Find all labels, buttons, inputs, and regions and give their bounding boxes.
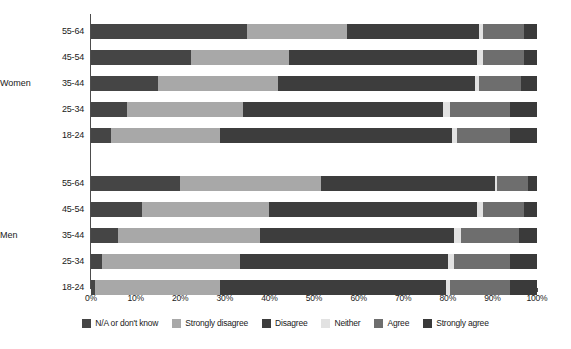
bar-segment-disagree	[243, 102, 444, 117]
bar-track	[91, 228, 537, 243]
bar-segment-n-a-or-don-t-know	[91, 254, 102, 269]
legend-swatch-agree	[374, 319, 383, 328]
bar-row	[91, 202, 537, 217]
bar-segment-n-a-or-don-t-know	[91, 50, 191, 65]
legend-label: Strongly disagree	[185, 318, 248, 328]
x-tick-label: 60%	[350, 293, 366, 303]
x-tick-label: 50%	[306, 293, 322, 303]
x-tick-label: 100%	[527, 293, 548, 303]
legend-item[interactable]: Agree	[374, 318, 409, 328]
category-label: 25-34	[44, 254, 84, 269]
bar-segment-disagree	[321, 176, 495, 191]
bar-segment-strongly-disagree	[247, 24, 347, 39]
bar-segment-strongly-disagree	[118, 228, 261, 243]
bar-segment-n-a-or-don-t-know	[91, 228, 118, 243]
bar-segment-n-a-or-don-t-know	[91, 24, 247, 39]
legend-item[interactable]: Neither	[321, 318, 360, 328]
bar-row	[91, 50, 537, 65]
bar-track	[91, 50, 537, 65]
legend-item[interactable]: Disagree	[262, 318, 307, 328]
bar-segment-agree	[479, 76, 521, 91]
bar-segment-n-a-or-don-t-know	[91, 128, 111, 143]
bar-segment-strongly-agree	[528, 176, 537, 191]
bar-track	[91, 176, 537, 191]
bar-segment-n-a-or-don-t-know	[91, 176, 180, 191]
bar-segment-agree	[497, 176, 528, 191]
plot-area	[91, 14, 537, 288]
bar-row	[91, 128, 537, 143]
bar-segment-strongly-agree	[524, 24, 537, 39]
legend-swatch-disagree	[262, 319, 271, 328]
bar-segment-strongly-disagree	[95, 280, 220, 295]
bar-track	[91, 202, 537, 217]
bar-segment-strongly-disagree	[102, 254, 240, 269]
bar-segment-agree	[483, 202, 523, 217]
bar-segment-strongly-agree	[510, 128, 537, 143]
bar-segment-strongly-agree	[524, 50, 537, 65]
bar-segment-strongly-disagree	[191, 50, 289, 65]
category-label: 45-54	[44, 202, 84, 217]
bar-track	[91, 102, 537, 117]
bar-segment-agree	[483, 24, 523, 39]
bar-segment-agree	[450, 102, 510, 117]
bar-segment-disagree	[240, 254, 447, 269]
legend-item[interactable]: Strongly agree	[423, 318, 488, 328]
bar-segment-disagree	[220, 280, 445, 295]
bar-track	[91, 254, 537, 269]
category-label: 45-54	[44, 50, 84, 65]
x-tick-label: 40%	[261, 293, 277, 303]
bar-segment-agree	[461, 228, 519, 243]
category-label-column: 55-6445-5435-4425-3418-2455-6445-5435-44…	[38, 14, 84, 288]
x-tick-label: 30%	[217, 293, 233, 303]
bar-segment-strongly-agree	[510, 254, 537, 269]
x-tick-label: 80%	[440, 293, 456, 303]
bar-segment-disagree	[220, 128, 452, 143]
bar-segment-disagree	[289, 50, 476, 65]
legend-label: Disagree	[275, 318, 307, 328]
bar-segment-agree	[483, 50, 523, 65]
bar-segment-strongly-disagree	[180, 176, 320, 191]
bar-row	[91, 254, 537, 269]
legend-item[interactable]: Strongly disagree	[172, 318, 248, 328]
chart-legend: N/A or don't knowStrongly disagreeDisagr…	[0, 318, 571, 328]
legend-label: Neither	[334, 318, 360, 328]
bar-segment-disagree	[347, 24, 479, 39]
bar-segment-strongly-agree	[524, 202, 537, 217]
bar-segment-disagree	[278, 76, 474, 91]
x-tick-label: 70%	[395, 293, 411, 303]
group-label-women: Women	[0, 76, 44, 91]
legend-label: Strongly agree	[436, 318, 488, 328]
bar-segment-neither	[454, 228, 461, 243]
bar-segment-strongly-disagree	[158, 76, 278, 91]
category-label: 18-24	[44, 280, 84, 295]
category-label: 55-64	[44, 24, 84, 39]
bar-row	[91, 102, 537, 117]
bar-row	[91, 76, 537, 91]
bar-row	[91, 24, 537, 39]
category-label: 18-24	[44, 128, 84, 143]
legend-swatch-neither	[321, 319, 330, 328]
category-label: 25-34	[44, 102, 84, 117]
legend-item[interactable]: N/A or don't know	[82, 318, 158, 328]
category-label: 35-44	[44, 228, 84, 243]
x-tick-label: 90%	[484, 293, 500, 303]
category-label: 35-44	[44, 76, 84, 91]
bar-segment-neither	[443, 102, 450, 117]
bar-segment-strongly-disagree	[111, 128, 220, 143]
bar-segment-strongly-agree	[510, 102, 537, 117]
bar-segment-neither	[477, 50, 484, 65]
bar-segment-n-a-or-don-t-know	[91, 102, 127, 117]
legend-label: Agree	[387, 318, 409, 328]
bar-row	[91, 176, 537, 191]
legend-swatch-strongly-agree	[423, 319, 432, 328]
x-tick-label: 20%	[172, 293, 188, 303]
bar-segment-strongly-disagree	[142, 202, 269, 217]
bar-segment-strongly-agree	[519, 228, 537, 243]
x-tick-label: 0%	[85, 293, 97, 303]
legend-swatch-strongly-disagree	[172, 319, 181, 328]
bar-track	[91, 128, 537, 143]
bar-segment-agree	[454, 254, 510, 269]
bar-segment-agree	[450, 280, 510, 295]
bar-segment-n-a-or-don-t-know	[91, 76, 158, 91]
bar-segment-strongly-disagree	[127, 102, 243, 117]
